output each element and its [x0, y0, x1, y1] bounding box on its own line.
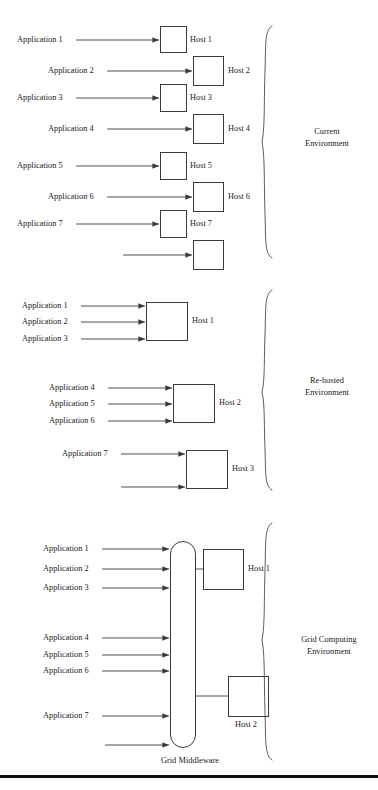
host-label-current-3: Host 3 — [190, 94, 212, 102]
app-label-current-3: Application 3 — [17, 94, 63, 102]
env-label-rehosted-line1: Re-hosted — [310, 376, 344, 385]
host-label-rehosted-1: Host 1 — [192, 317, 214, 325]
app-label-grid-4: Application 4 — [43, 634, 89, 642]
section-rehosted-environment — [81, 290, 272, 490]
app-label-rehosted-7: Application 7 — [62, 450, 108, 458]
host-label-current-4: Host 4 — [228, 125, 250, 133]
env-label-current-line2: Environment — [305, 139, 349, 148]
app-label-current-4: Application 4 — [48, 125, 94, 133]
app-label-current-1: Application 1 — [17, 36, 63, 44]
env-label-current-environment: Current Environment — [284, 126, 370, 149]
host-box-current-7 — [161, 211, 187, 238]
footer-rule — [0, 775, 378, 778]
host-box-grid-1 — [204, 550, 244, 590]
host-label-current-1: Host 1 — [190, 36, 212, 44]
brace-grid-environment — [262, 523, 272, 760]
section-current-environment — [76, 26, 272, 270]
grid-middleware-label: Grid Middleware — [140, 757, 240, 765]
host-label-rehosted-2: Host 2 — [219, 399, 241, 407]
host-box-current-3 — [161, 85, 187, 112]
host-label-grid-2: Host 2 — [235, 721, 257, 729]
brace-current-environment — [262, 26, 272, 258]
app-label-rehosted-5: Application 5 — [49, 400, 95, 408]
host-label-current-5: Host 5 — [190, 162, 212, 170]
host-box-grid-2 — [229, 677, 269, 717]
env-label-grid-line2: Environment — [307, 647, 351, 656]
app-label-current-2: Application 2 — [48, 67, 94, 75]
host-box-rehosted-1 — [147, 303, 188, 341]
host-box-current-8 — [194, 241, 224, 270]
app-label-grid-7: Application 7 — [43, 712, 89, 720]
host-box-current-2 — [194, 57, 224, 86]
host-label-rehosted-3: Host 3 — [232, 465, 254, 473]
env-label-rehosted-environment: Re-hosted Environment — [284, 375, 370, 398]
diagram-root: Application 1 Application 2 Application … — [0, 0, 378, 790]
host-box-rehosted-2 — [174, 385, 215, 423]
app-label-grid-5: Application 5 — [43, 651, 89, 659]
app-label-rehosted-1: Application 1 — [22, 302, 68, 310]
app-label-current-5: Application 5 — [17, 162, 63, 170]
app-label-rehosted-3: Application 3 — [22, 335, 68, 343]
host-label-current-7: Host 7 — [190, 220, 212, 228]
app-label-grid-1: Application 1 — [43, 545, 89, 553]
env-label-rehosted-line2: Environment — [305, 388, 349, 397]
app-label-current-6: Application 6 — [48, 193, 94, 201]
app-label-current-7: Application 7 — [17, 220, 63, 228]
host-box-current-1 — [161, 27, 187, 53]
app-label-rehosted-6: Application 6 — [49, 417, 95, 425]
host-label-current-2: Host 2 — [228, 67, 250, 75]
host-box-current-5 — [161, 153, 187, 180]
host-label-grid-1: Host 1 — [248, 565, 270, 573]
env-label-current-line1: Current — [314, 127, 340, 136]
env-label-grid-line1: Grid Computing — [301, 635, 356, 644]
host-box-current-6 — [194, 183, 224, 212]
app-label-grid-6: Application 6 — [43, 667, 89, 675]
app-label-grid-2: Application 2 — [43, 565, 89, 573]
app-label-grid-3: Application 3 — [43, 584, 89, 592]
host-box-current-4 — [194, 115, 224, 144]
host-label-current-6: Host 6 — [228, 193, 250, 201]
env-label-grid-environment: Grid Computing Environment — [280, 634, 378, 657]
app-label-rehosted-2: Application 2 — [22, 318, 68, 326]
brace-rehosted-environment — [262, 290, 272, 490]
host-box-rehosted-3 — [187, 451, 228, 489]
grid-middleware-bar — [171, 542, 196, 748]
app-label-rehosted-4: Application 4 — [49, 384, 95, 392]
